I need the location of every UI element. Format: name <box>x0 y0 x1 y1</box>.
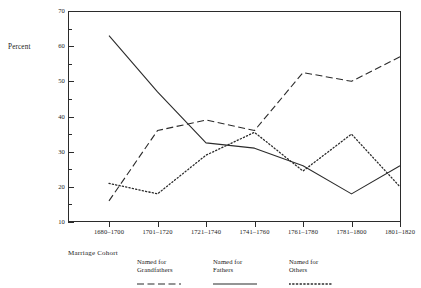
legend-label-line1: Named for <box>213 258 293 266</box>
y-tick-major <box>68 152 74 153</box>
x-tick <box>109 222 110 227</box>
y-tick-minor <box>68 134 72 135</box>
legend-label-line2: Others <box>289 266 369 274</box>
legend-label-line2: Fathers <box>213 266 293 274</box>
y-tick-major <box>68 187 74 188</box>
legend-entry: Named forOthers <box>289 258 369 288</box>
x-tick <box>255 222 256 227</box>
y-tick-major <box>68 11 74 12</box>
x-axis-title: Marriage Cohort <box>68 249 118 257</box>
y-tick-label: 10 <box>49 218 65 225</box>
y-tick-minor <box>68 204 72 205</box>
x-tick-label: 1801–1820 <box>370 228 421 235</box>
y-tick-minor <box>68 169 72 170</box>
x-tick <box>303 222 304 227</box>
y-tick-major <box>68 222 74 223</box>
y-axis-title: Percent <box>8 43 31 51</box>
y-tick-major <box>68 81 74 82</box>
y-tick-minor <box>68 64 72 65</box>
legend-swatch <box>137 281 181 287</box>
y-tick-label: 20 <box>49 183 65 190</box>
x-tick <box>158 222 159 227</box>
chart-figure: Percent 10203040506070 1680–17001701–172… <box>0 0 421 288</box>
x-tick <box>352 222 353 227</box>
plot-area <box>68 11 401 222</box>
legend-swatch <box>213 281 257 287</box>
y-tick-minor <box>68 29 72 30</box>
x-tick <box>400 222 401 227</box>
legend-entry: Named forGrandfathers <box>137 258 217 288</box>
chart-legend: Named forGrandfathersNamed forFathersNam… <box>0 258 421 288</box>
y-tick-label: 40 <box>49 113 65 120</box>
legend-swatch <box>289 281 333 287</box>
y-tick-label: 70 <box>49 7 65 14</box>
legend-label-line1: Named for <box>137 258 217 266</box>
legend-label-line1: Named for <box>289 258 369 266</box>
y-tick-label: 50 <box>49 77 65 84</box>
legend-entry: Named forFathers <box>213 258 293 288</box>
y-tick-label: 60 <box>49 42 65 49</box>
legend-label-line2: Grandfathers <box>137 266 217 274</box>
y-tick-major <box>68 117 74 118</box>
y-tick-major <box>68 46 74 47</box>
x-tick <box>206 222 207 227</box>
y-tick-label: 30 <box>49 148 65 155</box>
y-tick-minor <box>68 99 72 100</box>
